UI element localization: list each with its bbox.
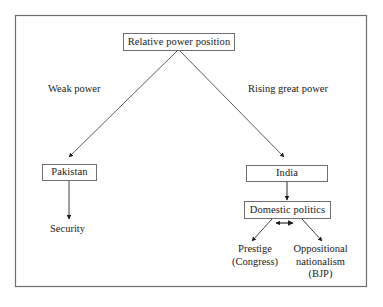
edge-label-weak-power: Weak power	[48, 83, 101, 95]
connector-domestic-to-prestige	[252, 219, 272, 241]
edge-label-rising-great-power: Rising great power	[248, 83, 328, 95]
node-india[interactable]: India	[246, 165, 328, 182]
node-relative-power-position[interactable]: Relative power position	[123, 33, 235, 51]
leaf-label-security: Security	[50, 223, 85, 235]
leaf-label-oppositional-nationalism-bjp: Oppositional nationalism (BJP)	[283, 243, 358, 281]
node-india-label: India	[276, 168, 298, 179]
connector-root-to-pakistan	[69, 51, 177, 157]
connector-domestic-to-opposition	[302, 219, 322, 241]
connector-root-to-india	[180, 51, 284, 157]
diagram-canvas: Relative power position Pakistan India D…	[0, 0, 383, 307]
leaf-label-opposition-line2: nationalism	[283, 256, 358, 269]
leaf-label-opposition-line1: Oppositional	[283, 243, 358, 256]
node-pakistan[interactable]: Pakistan	[42, 164, 97, 181]
leaf-label-opposition-line3: (BJP)	[283, 268, 358, 281]
node-relative-power-position-label: Relative power position	[128, 37, 231, 48]
node-domestic-politics-label: Domestic politics	[250, 205, 325, 216]
node-domestic-politics[interactable]: Domestic politics	[244, 201, 331, 219]
node-pakistan-label: Pakistan	[51, 167, 87, 178]
